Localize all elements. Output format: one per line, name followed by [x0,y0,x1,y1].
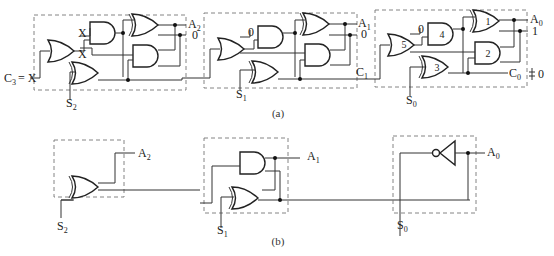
one-output-label: 1 [532,24,538,38]
zero-label: 0 [248,25,254,39]
and-gate [240,152,265,174]
gate-number-4: 4 [440,29,445,40]
s0-label: S0 [406,93,417,109]
stage0-block-a: 5 4 3 1 2 0 S0 A0 1 C0 0 [355,10,544,109]
zero-label: 0 [418,22,424,36]
gate-number-5: 5 [402,39,407,50]
s1-label: S1 [217,223,228,239]
a0-output-label: A0 [487,145,500,161]
xor-gate [252,61,278,83]
or-gate [48,40,74,62]
xor-gate [72,62,98,84]
and-gate [90,22,115,44]
a2-output-label: A2 [138,146,151,162]
stage1-block-a: 0 S1 A1 0 C1 [200,13,371,103]
stage2-block-a: C3= X X X S2 A2 0 [4,14,201,112]
stage2-block-b: S2 A2 [54,140,200,235]
zero-output-label: 0 [361,27,367,41]
c0-label: C0 [509,66,521,82]
s1-label: S1 [236,87,247,103]
gate-number-3: 3 [435,62,440,73]
x-label: X [78,26,87,40]
inverter-bubble [433,150,440,157]
caption-b: (b) [272,235,285,248]
gate-number-2: 2 [486,48,491,59]
xor-gate [232,187,258,209]
xor-gate [303,13,329,35]
c3-label: C3= X [4,71,37,87]
and-gate [133,45,158,67]
or-gate [218,38,244,60]
s2-label: S2 [57,219,68,235]
not-gate [440,141,455,165]
xor-gate [132,14,158,36]
and-gate [258,26,283,48]
caption-a: (a) [272,107,285,120]
s2-label: S2 [66,96,77,112]
dashed-box [393,136,476,213]
c0-value: 0 [538,67,544,81]
and-gate [305,44,330,66]
s0-label: S0 [397,218,408,234]
a1-output-label: A1 [307,149,320,165]
circuit-diagram: C3= X X X S2 A2 0 [0,0,554,256]
stage0-block-b: S0 A0 [393,136,500,236]
x-label: X [78,47,87,61]
zero-output-label: 0 [192,28,198,42]
xor-gate [72,176,98,198]
gate-number-1: 1 [486,16,491,27]
